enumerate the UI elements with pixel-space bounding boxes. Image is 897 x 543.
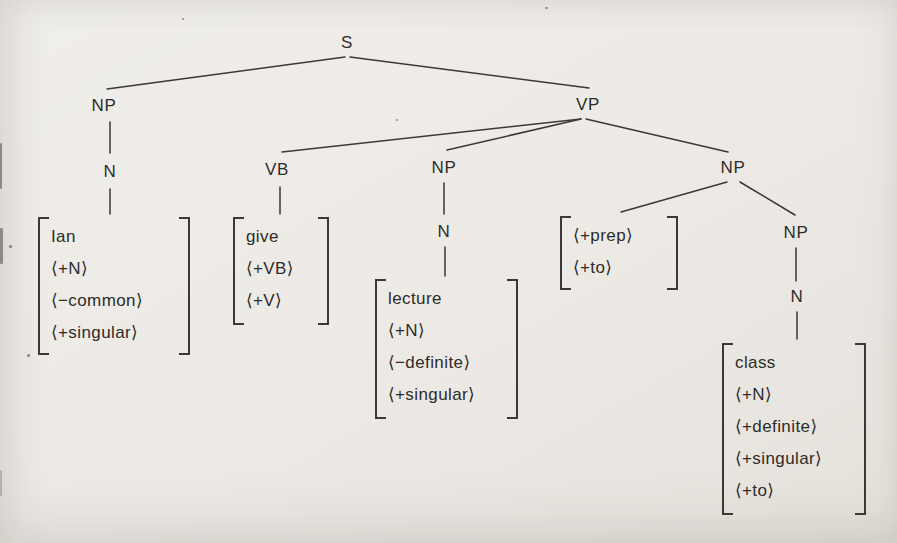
feature-row: give	[246, 221, 329, 253]
matrix-prep-rows: ⟨+prep⟩⟨+to⟩	[560, 216, 678, 284]
scan-speck	[9, 245, 12, 248]
scan-speck	[396, 119, 398, 121]
feature-row: ⟨+to⟩	[573, 252, 678, 284]
scan-edge-smudge	[0, 143, 2, 189]
matrix-ian: Ian⟨+N⟩⟨−common⟩⟨+singular⟩	[38, 217, 190, 355]
node-n-direct-object: N	[438, 222, 451, 242]
feature-row: ⟨+definite⟩	[735, 411, 866, 443]
matrix-give: give⟨+VB⟩⟨+V⟩	[233, 217, 329, 325]
node-vb: VB	[265, 160, 289, 180]
tree-branch	[350, 57, 589, 88]
feature-row: Ian	[51, 221, 190, 253]
feature-row: ⟨+to⟩	[735, 475, 866, 507]
matrix-ian-rows: Ian⟨+N⟩⟨−common⟩⟨+singular⟩	[38, 217, 190, 349]
node-np-subject: NP	[92, 96, 117, 116]
feature-row: ⟨+N⟩	[51, 253, 190, 285]
node-n-indirect: N	[791, 287, 804, 307]
feature-row: ⟨+VB⟩	[246, 253, 329, 285]
tree-branch	[621, 182, 727, 212]
matrix-give-rows: give⟨+VB⟩⟨+V⟩	[233, 217, 329, 317]
feature-row: ⟨+prep⟩	[573, 220, 678, 252]
node-np-indirect: NP	[721, 158, 746, 178]
tree-branch	[740, 182, 795, 215]
matrix-class-rows: class⟨+N⟩⟨+definite⟩⟨+singular⟩⟨+to⟩	[722, 343, 866, 507]
matrix-prep: ⟨+prep⟩⟨+to⟩	[560, 216, 678, 290]
matrix-lecture-rows: lecture⟨+N⟩⟨−definite⟩⟨+singular⟩	[375, 279, 518, 411]
tree-branch	[447, 119, 581, 150]
tree-branch	[282, 119, 581, 152]
node-np-indirect-inner: NP	[784, 223, 809, 243]
node-s: S	[341, 33, 353, 53]
scan-speck	[545, 7, 548, 9]
scan-edge-smudge	[0, 228, 3, 264]
matrix-lecture: lecture⟨+N⟩⟨−definite⟩⟨+singular⟩	[375, 279, 518, 419]
feature-row: class	[735, 347, 866, 379]
feature-row: ⟨−common⟩	[51, 285, 190, 317]
matrix-class: class⟨+N⟩⟨+definite⟩⟨+singular⟩⟨+to⟩	[722, 343, 866, 515]
feature-row: ⟨+V⟩	[246, 285, 329, 317]
scanned-page: SNPVPNVBNPNPNNPN Ian⟨+N⟩⟨−common⟩⟨+singu…	[0, 0, 897, 543]
tree-branch	[107, 57, 345, 89]
scan-speck	[182, 18, 184, 20]
feature-row: ⟨+singular⟩	[388, 379, 518, 411]
feature-row: ⟨+N⟩	[735, 379, 866, 411]
node-n-subject: N	[104, 162, 117, 182]
feature-row: ⟨+singular⟩	[735, 443, 866, 475]
feature-row: ⟨+N⟩	[388, 315, 518, 347]
node-vp: VP	[576, 95, 600, 115]
tree-branch	[586, 119, 728, 152]
feature-row: ⟨−definite⟩	[388, 347, 518, 379]
scan-speck	[27, 354, 30, 357]
feature-row: lecture	[388, 283, 518, 315]
scan-edge-smudge	[0, 470, 2, 496]
node-np-direct-object: NP	[432, 158, 457, 178]
feature-row: ⟨+singular⟩	[51, 317, 190, 349]
